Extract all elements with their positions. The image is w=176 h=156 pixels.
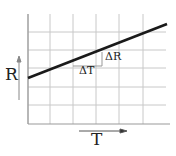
delta-r-label: ΔR	[105, 51, 121, 62]
y-axis-label: R	[5, 66, 18, 83]
x-axis-label: T	[91, 131, 102, 148]
delta-t-label: ΔT	[79, 65, 94, 76]
x-arrow-icon	[79, 129, 127, 133]
graph-canvas	[0, 0, 176, 156]
